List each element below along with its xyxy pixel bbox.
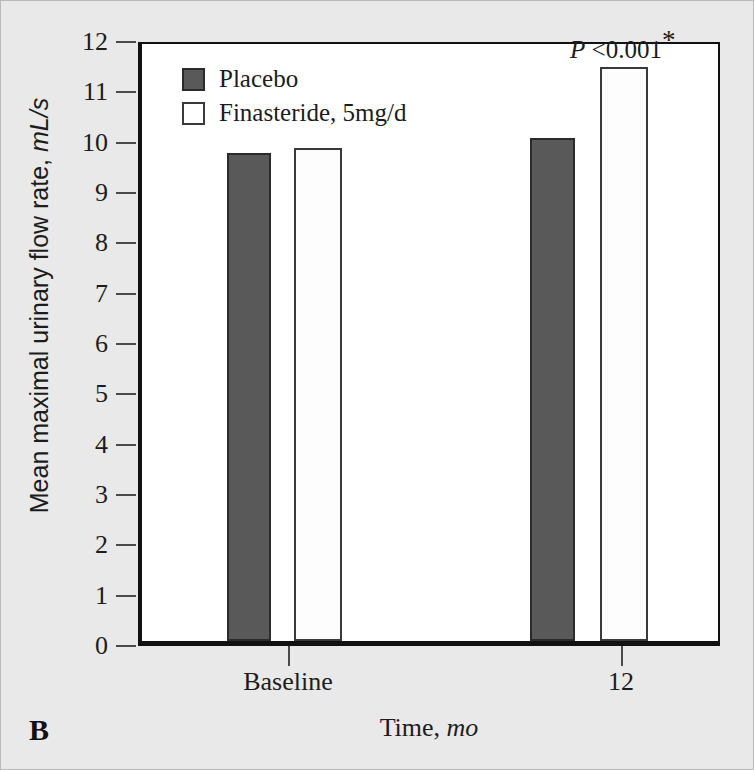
y-axis-tick-label: 1 <box>48 581 108 611</box>
y-axis-tick-mark <box>116 293 136 295</box>
y-axis-tick-mark <box>116 645 136 647</box>
legend-label-finasteride: Finasteride, 5mg/d <box>219 99 406 127</box>
bar-12-placebo <box>530 138 575 641</box>
y-axis-tick-label: 7 <box>48 279 108 309</box>
y-axis-tick-label: 6 <box>48 329 108 359</box>
y-axis-tick-mark <box>116 91 136 93</box>
y-axis-tick-mark <box>116 41 136 43</box>
x-axis-title-plain: Time, <box>380 713 447 742</box>
y-axis-tick-mark <box>116 494 136 496</box>
y-axis-tick-label: 5 <box>48 379 108 409</box>
y-axis-tick-label: 0 <box>48 631 108 661</box>
y-axis-tick-mark <box>116 544 136 546</box>
legend-item-finasteride: Finasteride, 5mg/d <box>182 96 406 130</box>
y-axis-tick-mark <box>116 444 136 446</box>
y-axis-tick-label: 10 <box>48 128 108 158</box>
y-axis-tick-mark <box>116 343 136 345</box>
chart-legend: Placebo Finasteride, 5mg/d <box>182 62 406 130</box>
figure-panel-b: Mean maximal urinary flow rate, mL/s 012… <box>0 0 754 770</box>
x-axis-tick-label: 12 <box>521 667 721 697</box>
x-axis-tick-mark <box>288 646 290 666</box>
legend-swatch-placebo <box>182 68 205 91</box>
y-axis-tick-label: 11 <box>48 77 108 107</box>
y-axis-tick-label: 3 <box>48 480 108 510</box>
x-axis-title-units: mo <box>447 713 479 742</box>
legend-item-placebo: Placebo <box>182 62 406 96</box>
y-axis-tick-mark <box>116 595 136 597</box>
y-axis-tick-mark <box>116 192 136 194</box>
x-axis-tick-mark <box>621 646 623 666</box>
plot-area: Placebo Finasteride, 5mg/d P <0.001* <box>142 44 718 641</box>
y-axis-tick-label: 8 <box>48 228 108 258</box>
y-axis-tick-label: 9 <box>48 178 108 208</box>
x-axis-title: Time, mo <box>138 713 720 743</box>
legend-label-placebo: Placebo <box>219 65 298 93</box>
x-axis-tick-label: Baseline <box>188 667 388 697</box>
y-axis-tick-label: 2 <box>48 530 108 560</box>
p-value-text: <0.001 <box>585 36 662 63</box>
bar-baseline-placebo <box>227 153 271 641</box>
bar-baseline-finasteride <box>294 148 342 641</box>
panel-label: B <box>29 713 49 747</box>
y-axis-tick-mark <box>116 242 136 244</box>
y-axis-tick-label: 12 <box>48 27 108 57</box>
y-axis-tick-mark <box>116 393 136 395</box>
y-axis-tick-mark <box>116 142 136 144</box>
y-axis-tick-label: 4 <box>48 430 108 460</box>
p-value-symbol: P <box>570 36 585 63</box>
p-value-annotation: P <0.001* <box>570 36 675 64</box>
significance-asterisk: * <box>662 25 676 55</box>
bar-12-finasteride <box>600 67 648 641</box>
legend-swatch-finasteride <box>182 102 205 125</box>
plot-frame: Placebo Finasteride, 5mg/d P <0.001* <box>138 42 720 646</box>
